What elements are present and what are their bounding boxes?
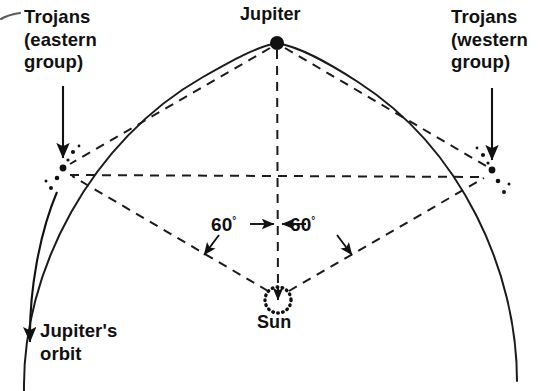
angle-right-leg-arrow — [337, 235, 352, 255]
trojan-asteroids-diagram: Trojans (eastern group) Trojans (western… — [0, 0, 538, 391]
sun-trojans-eastern-line — [72, 176, 268, 291]
sun-trojans-western-line — [289, 178, 484, 291]
angle-left-leg-arrow — [204, 235, 219, 255]
label-angle-right: 60° — [290, 213, 315, 236]
scan-artifact-mark — [1, 13, 20, 19]
label-trojans-western: Trojans (western group) — [451, 6, 528, 74]
angle-left-value: 60 — [211, 214, 232, 235]
label-angle-left: 60° — [211, 213, 236, 236]
label-jupiter: Jupiter — [240, 4, 301, 26]
angle-left-degree-symbol: ° — [232, 215, 236, 226]
angle-right-value: 60 — [290, 214, 311, 235]
angle-right-degree-symbol: ° — [311, 215, 315, 226]
label-trojans-eastern: Trojans (eastern group) — [24, 6, 97, 74]
label-jupiters-orbit: Jupiter's orbit — [40, 320, 117, 365]
sun-jupiter-line — [277, 50, 278, 291]
jupiter-trojans-eastern-line — [70, 48, 270, 164]
label-sun: Sun — [257, 312, 291, 334]
jupiter-body-marker — [270, 36, 284, 50]
trojans-chord-line — [70, 175, 485, 177]
